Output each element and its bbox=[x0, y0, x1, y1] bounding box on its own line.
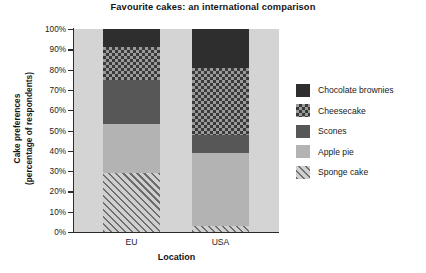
bar-segment-eu-cheesecake bbox=[103, 47, 160, 80]
chart-figure: Favourite cakes: an international compar… bbox=[0, 0, 426, 273]
legend-swatch-icon-sponge-cake bbox=[296, 166, 310, 179]
y-tick-label: 70% bbox=[26, 86, 66, 95]
y-axis-spine bbox=[73, 28, 74, 233]
legend-label-apple-pie: Apple pie bbox=[318, 147, 354, 157]
legend-swatch-icon-scones bbox=[296, 125, 310, 138]
bar-segment-eu-scones bbox=[103, 80, 160, 125]
y-tick-label: 10% bbox=[26, 208, 66, 217]
bar-segment-usa-cheesecake bbox=[192, 68, 249, 135]
bar-eu bbox=[103, 29, 160, 232]
y-tick-label: 40% bbox=[26, 147, 66, 156]
bar-segment-usa-scones bbox=[192, 135, 249, 153]
legend-item-apple-pie: Apple pie bbox=[296, 142, 422, 163]
y-tick-label: 0% bbox=[26, 228, 66, 237]
y-axis-title-line-1: Cake preferences bbox=[12, 29, 24, 229]
legend-swatch-icon-chocolate-brownies bbox=[296, 84, 310, 97]
bar-usa bbox=[192, 29, 249, 232]
legend-item-cheesecake: Cheesecake bbox=[296, 101, 422, 122]
legend-swatch-icon-cheesecake bbox=[296, 104, 310, 117]
legend-swatch-icon-apple-pie bbox=[296, 145, 310, 158]
legend-label-sponge-cake: Sponge cake bbox=[318, 167, 368, 177]
legend-label-scones: Scones bbox=[318, 126, 347, 136]
bar-segment-usa-chocolate-brownies bbox=[192, 29, 249, 68]
y-tick-label: 100% bbox=[26, 25, 66, 34]
x-tick-label-usa: USA bbox=[181, 237, 261, 247]
x-axis-title: Location bbox=[74, 252, 279, 262]
x-tick-label-eu: EU bbox=[92, 237, 172, 247]
bar-segment-usa-apple-pie bbox=[192, 153, 249, 226]
bar-segment-eu-apple-pie bbox=[103, 124, 160, 173]
legend-label-chocolate-brownies: Chocolate brownies bbox=[318, 85, 393, 95]
chart-legend: Chocolate brownies Cheesecake Scones App… bbox=[296, 80, 422, 183]
bar-segment-eu-sponge-cake bbox=[103, 173, 160, 232]
x-axis-spine bbox=[73, 232, 279, 233]
legend-item-sponge-cake: Sponge cake bbox=[296, 162, 422, 183]
bar-segment-eu-chocolate-brownies bbox=[103, 29, 160, 47]
y-tick-label: 20% bbox=[26, 187, 66, 196]
legend-item-chocolate-brownies: Chocolate brownies bbox=[296, 80, 422, 101]
y-tick-label: 50% bbox=[26, 127, 66, 136]
y-tick-label: 30% bbox=[26, 167, 66, 176]
y-tick-label: 60% bbox=[26, 106, 66, 115]
plot-area bbox=[74, 29, 279, 232]
legend-label-cheesecake: Cheesecake bbox=[318, 106, 366, 116]
y-tick-label: 80% bbox=[26, 66, 66, 75]
legend-item-scones: Scones bbox=[296, 121, 422, 142]
chart-title: Favourite cakes: an international compar… bbox=[0, 2, 426, 12]
y-tick-label: 90% bbox=[26, 45, 66, 54]
